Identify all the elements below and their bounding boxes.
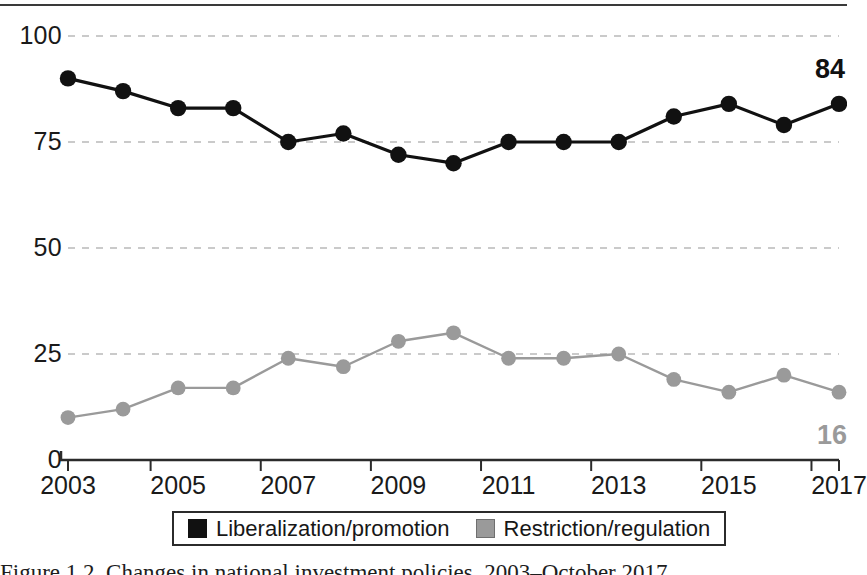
data-point xyxy=(445,155,461,171)
legend-swatch-dark-icon xyxy=(188,519,207,538)
x-axis-tick-label: 2013 xyxy=(591,472,647,500)
data-point xyxy=(832,385,847,400)
data-point xyxy=(226,381,241,396)
data-point xyxy=(666,108,682,124)
data-point xyxy=(831,96,847,112)
data-point xyxy=(280,134,296,150)
plot-area xyxy=(0,12,847,472)
figure-caption-text: Figure 1.2. Changes in national investme… xyxy=(0,561,668,575)
data-point xyxy=(611,347,626,362)
data-point xyxy=(777,368,792,383)
data-point xyxy=(721,385,736,400)
chart-legend: Liberalization/promotionRestriction/regu… xyxy=(172,511,726,546)
data-point xyxy=(170,100,186,116)
data-point xyxy=(171,381,186,396)
data-point xyxy=(390,147,406,163)
x-axis-tick-labels: 20032005200720092011201320152017 xyxy=(0,472,847,508)
data-point xyxy=(335,125,351,141)
legend-label: Restriction/regulation xyxy=(504,518,711,540)
data-point xyxy=(611,134,627,150)
data-point xyxy=(225,100,241,116)
data-point xyxy=(556,351,571,366)
x-axis-tick-label: 2005 xyxy=(150,472,206,500)
gridlines-group xyxy=(68,36,839,354)
data-point xyxy=(336,359,351,374)
x-axis-tick-label: 2003 xyxy=(40,472,96,500)
data-point xyxy=(721,96,737,112)
data-point xyxy=(500,134,516,150)
top-rule-divider xyxy=(0,4,847,6)
data-point xyxy=(501,351,516,366)
x-axis-tick-label: 2015 xyxy=(701,472,757,500)
data-point xyxy=(60,70,76,86)
data-point xyxy=(555,134,571,150)
series-end-label-restriction: 16 xyxy=(817,422,847,449)
line-chart-svg xyxy=(0,12,847,472)
series-line-1 xyxy=(68,78,839,163)
series-end-label-liberalization: 84 xyxy=(815,56,845,83)
x-axis-tick-label: 2007 xyxy=(260,472,316,500)
legend-swatch-gray-icon xyxy=(476,519,495,538)
series-line-2 xyxy=(68,333,839,418)
x-axis-tick-label: 2017 xyxy=(811,472,867,500)
data-point xyxy=(391,334,406,349)
figure-caption: Figure 1.2. Changes in national investme… xyxy=(0,561,847,575)
legend-label: Liberalization/promotion xyxy=(216,518,450,540)
data-point xyxy=(61,410,76,425)
axis-lines-group xyxy=(60,451,839,471)
data-point xyxy=(116,402,131,417)
data-point xyxy=(446,325,461,340)
legend-entry-1[interactable]: Liberalization/promotion xyxy=(188,518,450,540)
data-point xyxy=(281,351,296,366)
data-point xyxy=(115,83,131,99)
data-point xyxy=(776,117,792,133)
data-point xyxy=(666,372,681,387)
legend-entry-2[interactable]: Restriction/regulation xyxy=(476,518,711,540)
x-axis-tick-label: 2009 xyxy=(371,472,427,500)
x-axis-tick-label: 2011 xyxy=(482,472,536,500)
